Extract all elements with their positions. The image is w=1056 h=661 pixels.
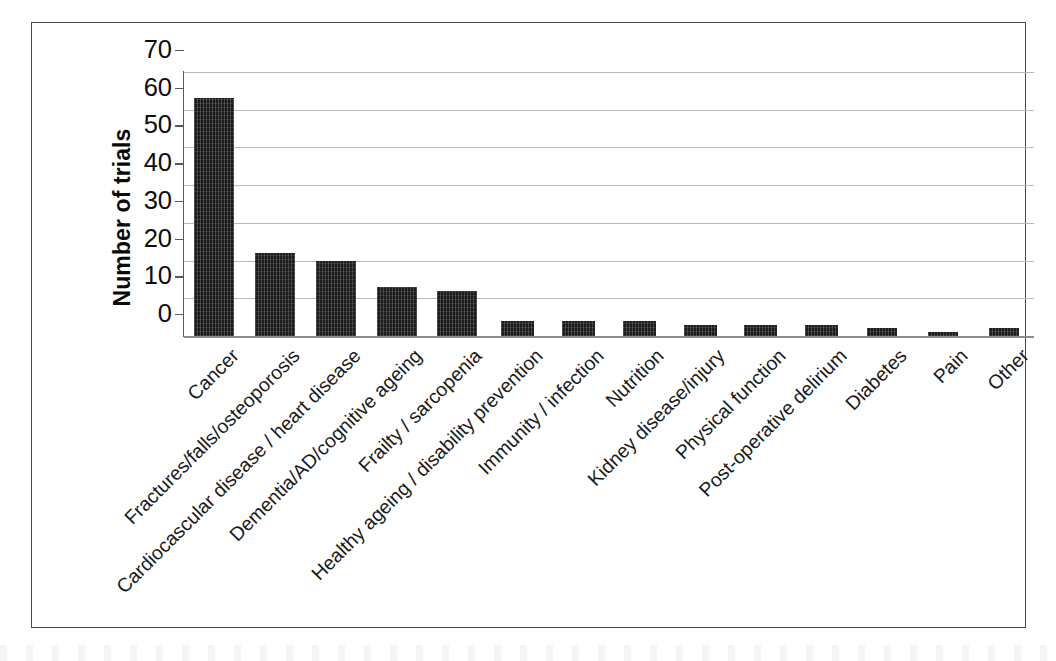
y-tick-label-30: 30 — [144, 188, 172, 214]
y-tick-label-10: 10 — [144, 263, 172, 289]
bar[interactable] — [989, 328, 1019, 336]
y-tick-0 — [175, 314, 184, 315]
bar[interactable] — [805, 325, 838, 336]
y-tick-label-20: 20 — [144, 226, 172, 252]
bar[interactable] — [255, 253, 295, 336]
gridline-50 — [184, 147, 1034, 148]
plot-area — [184, 72, 1034, 336]
bar[interactable] — [501, 321, 534, 336]
bar[interactable] — [562, 321, 595, 336]
y-tick-30 — [175, 201, 184, 202]
bar[interactable] — [867, 328, 897, 336]
bar[interactable] — [194, 98, 234, 336]
bar[interactable] — [744, 325, 777, 336]
y-tick-label-0: 0 — [158, 301, 172, 327]
gridline-40 — [184, 185, 1034, 186]
y-tick-70 — [175, 50, 184, 51]
gridline-60 — [184, 110, 1034, 111]
y-tick-10 — [175, 276, 184, 277]
y-tick-label-40: 40 — [144, 150, 172, 176]
gridline-30 — [184, 223, 1034, 224]
bar[interactable] — [928, 332, 958, 336]
bar[interactable] — [437, 291, 477, 336]
y-tick-60 — [175, 88, 184, 89]
gridline-20 — [184, 261, 1034, 262]
y-tick-label-70: 70 — [144, 37, 172, 63]
scan-artifact — [0, 645, 1056, 661]
figure-frame: Number of trials 010203040506070 CancerF… — [31, 22, 1026, 628]
axis-baseline — [184, 336, 1034, 338]
y-tick-20 — [175, 239, 184, 240]
y-tick-40 — [175, 163, 184, 164]
bar[interactable] — [623, 321, 656, 336]
bar[interactable] — [316, 261, 356, 336]
gridline-70 — [184, 72, 1034, 73]
y-tick-label-60: 60 — [144, 75, 172, 101]
y-tick-50 — [175, 125, 184, 126]
y-tick-label-50: 50 — [144, 112, 172, 138]
gridline-10 — [184, 298, 1034, 299]
bar[interactable] — [684, 325, 717, 336]
bar[interactable] — [377, 287, 417, 336]
